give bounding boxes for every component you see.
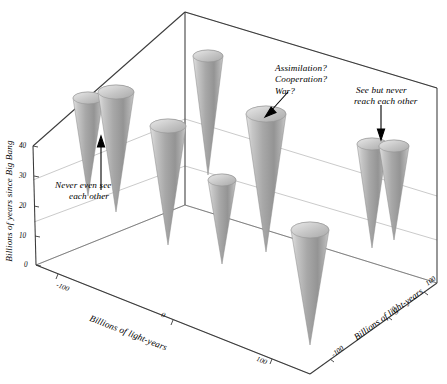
light-cone	[150, 119, 186, 245]
light-cone	[246, 106, 286, 252]
annotation-see-but-never-reach: See but never reach each other	[356, 85, 418, 108]
z-tick-30: 30	[19, 172, 26, 180]
z-tick-0: 0	[24, 261, 28, 269]
z-tick-20: 20	[19, 202, 26, 210]
annotation-line: each other	[69, 191, 112, 202]
z-axis-label: Billions of years since Big Bang	[4, 140, 14, 261]
annotation-line: See but never	[356, 85, 418, 96]
annotation-assimilation: Assimilation? Cooperation? War?	[275, 63, 327, 97]
light-cone	[291, 222, 329, 345]
light-cone	[379, 140, 409, 240]
light-cone-3d-figure: Billions of years since Big Bang 40 30 2…	[0, 0, 447, 384]
annotation-arrows	[97, 92, 384, 190]
annotation-line: Assimilation?	[275, 63, 327, 74]
annotation-line: reach each other	[354, 96, 418, 107]
light-cone	[193, 50, 223, 175]
z-axis-ticks	[33, 146, 41, 266]
annotation-line: War?	[275, 86, 327, 97]
z-tick-10: 10	[19, 232, 26, 240]
annotation-line: Cooperation?	[275, 74, 327, 85]
annotation-line: Never even see	[55, 180, 112, 191]
light-cone	[208, 174, 236, 264]
z-tick-40: 40	[19, 142, 26, 150]
annotation-never-even-see: Never even see each other	[55, 180, 112, 203]
